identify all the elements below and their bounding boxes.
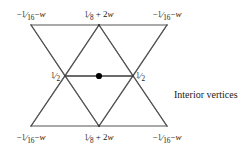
label-middle-left-text: 1⁄2 (51, 70, 60, 80)
label-middle-left: 1⁄2 (51, 71, 60, 81)
center-vertex-dot (96, 73, 102, 79)
label-top-right-text: −1⁄16−w (153, 9, 182, 19)
label-bottom-right-text: −1⁄16−w (153, 132, 182, 142)
label-bottom-left-text: −1⁄16−w (17, 132, 46, 142)
label-top-right: −1⁄16−w (153, 10, 182, 20)
label-bottom-right: −1⁄16−w (153, 133, 182, 143)
vertex-top-center-mark (98, 24, 100, 26)
label-middle-right-text: 1⁄2 (136, 70, 145, 80)
label-bottom-center: 1⁄8 + 2w (84, 133, 113, 143)
label-bottom-left: −1⁄16−w (17, 133, 46, 143)
label-middle-right: 1⁄2 (136, 71, 145, 81)
figure-canvas: −1⁄16−w 1⁄8 + 2w −1⁄16−w 1⁄2 1⁄2 −1⁄16−w… (0, 0, 238, 153)
vertex-bottom-center-mark (98, 125, 100, 127)
label-top-left-text: −1⁄16−w (17, 9, 46, 19)
label-top-center-text: 1⁄8 + 2w (84, 9, 113, 19)
label-bottom-center-text: 1⁄8 + 2w (84, 132, 113, 142)
figure-caption: Interior vertices (174, 89, 238, 100)
triangular-mesh-diagram (0, 0, 238, 153)
label-top-center: 1⁄8 + 2w (84, 10, 113, 20)
label-top-left: −1⁄16−w (17, 10, 46, 20)
